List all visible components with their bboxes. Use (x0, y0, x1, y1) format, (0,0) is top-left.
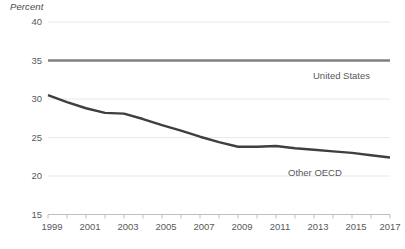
series-label-united-states: United States (313, 70, 370, 81)
series-label-other-oecd: Other OECD (288, 167, 342, 178)
x-axis-ticks (48, 215, 390, 219)
series-line-other-oecd (48, 95, 390, 157)
